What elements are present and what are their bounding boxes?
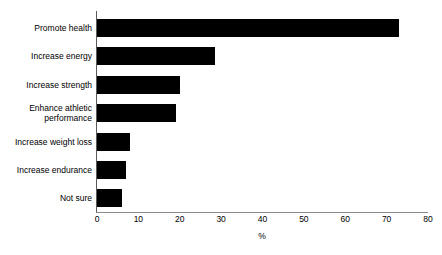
bar <box>97 76 180 94</box>
category-label: Increase strength <box>0 71 92 99</box>
x-tick-label: 20 <box>165 214 195 224</box>
category-label: Not sure <box>0 184 92 212</box>
x-tick-label: 60 <box>330 214 360 224</box>
x-axis-title: % <box>247 231 277 241</box>
x-tick-label: 70 <box>372 214 402 224</box>
bar-row: Increase weight loss <box>0 128 442 156</box>
bar <box>97 189 122 207</box>
bar-row: Not sure <box>0 184 442 212</box>
x-axis-ticks: 01020304050607080 <box>0 214 442 228</box>
bar <box>97 161 126 179</box>
x-tick-label: 50 <box>289 214 319 224</box>
bar <box>97 104 176 122</box>
bar-row: Increase strength <box>0 71 442 99</box>
x-tick-label: 80 <box>413 214 442 224</box>
category-label: Increase endurance <box>0 156 92 184</box>
category-label: Increase weight loss <box>0 128 92 156</box>
category-label: Increase energy <box>0 42 92 70</box>
bar <box>97 47 215 65</box>
bar <box>97 19 399 37</box>
x-tick-label: 30 <box>206 214 236 224</box>
x-tick-label: 10 <box>123 214 153 224</box>
bar-row: Promote health <box>0 14 442 42</box>
bar-row: Increase endurance <box>0 156 442 184</box>
bar-row: Increase energy <box>0 42 442 70</box>
x-tick-label: 40 <box>248 214 278 224</box>
bar-chart: Promote healthIncrease energyIncrease st… <box>0 0 442 255</box>
bar <box>97 133 130 151</box>
category-label: Promote health <box>0 14 92 42</box>
bar-row: Enhance athletic performance <box>0 99 442 127</box>
category-label: Enhance athletic performance <box>0 99 92 127</box>
x-tick-label: 0 <box>82 214 112 224</box>
